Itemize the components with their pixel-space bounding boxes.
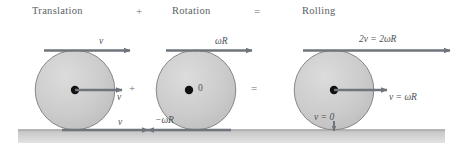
operator-plus-title: + [136,6,142,17]
translation-bottom-label: v [118,118,122,128]
operator-plus-mid: + [129,83,135,94]
panel-title-rotation: Rotation [172,6,211,17]
panel-title-translation: Translation [32,6,83,17]
rolling-bottom-label: v = 0 [314,113,334,123]
operator-equals-mid: = [251,83,257,94]
rotation-top-label: ωR [215,37,228,47]
rolling-motion-diagram: Translation + Rotation = Rolling + = v v… [0,0,463,148]
panel-title-rolling: Rolling [302,6,336,17]
rolling-top-label: 2v = 2ωR [359,35,396,45]
diagram-canvas [0,0,463,148]
translation-top-label: v [99,37,103,47]
rotation-bottom-label: −ωR [155,116,174,126]
operator-equals-title: = [254,6,260,17]
rotation-center-dot [185,86,193,94]
translation-center-label: v [117,93,121,103]
rotation-center-label: 0 [198,84,203,94]
ground-surface [18,130,445,144]
rolling-center-label: v = ωR [389,93,417,103]
